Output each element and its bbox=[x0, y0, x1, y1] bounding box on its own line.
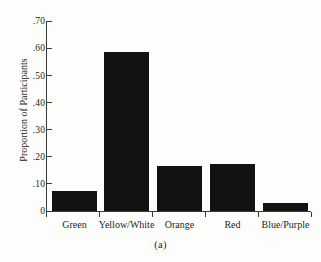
figure-panel-a: .70 .60 .50 .40 .30 .20 .10 0 Green Ye bbox=[0, 0, 321, 262]
x-category-label-blue-purple: Blue/Purple bbox=[262, 220, 310, 230]
x-tick-mark bbox=[152, 212, 153, 217]
figure-caption: (a) bbox=[0, 239, 321, 250]
bar-green bbox=[52, 191, 97, 211]
bar-red bbox=[210, 164, 255, 211]
x-tick-mark bbox=[205, 212, 206, 217]
x-tick-mark bbox=[46, 212, 47, 217]
x-axis-line bbox=[46, 211, 311, 212]
bar-orange bbox=[157, 166, 202, 211]
y-tick-label: .30 bbox=[33, 125, 47, 135]
x-category-label-orange: Orange bbox=[165, 220, 194, 230]
y-tick-mark bbox=[47, 156, 52, 157]
y-tick-label: .50 bbox=[33, 71, 47, 81]
y-tick-label: .40 bbox=[33, 98, 47, 108]
y-tick-mark bbox=[47, 48, 52, 49]
y-axis-title: Proportion of Participants bbox=[19, 35, 29, 185]
y-tick-label: .70 bbox=[33, 17, 47, 27]
y-tick-mark bbox=[47, 75, 52, 76]
y-tick-label: .10 bbox=[33, 180, 47, 190]
x-tick-mark bbox=[258, 212, 259, 217]
x-category-label-yellow-white: Yellow/White bbox=[99, 220, 155, 230]
figure-caption-text: (a) bbox=[154, 239, 166, 250]
x-tick-mark bbox=[99, 212, 100, 217]
bar-yellow-white bbox=[104, 52, 149, 211]
y-tick-mark bbox=[47, 21, 52, 22]
y-tick-label: .20 bbox=[33, 152, 47, 162]
y-tick-mark bbox=[47, 102, 52, 103]
bar-blue-purple bbox=[263, 203, 308, 211]
y-tick-label: .60 bbox=[33, 44, 47, 54]
y-tick-mark bbox=[47, 129, 52, 130]
x-category-label-red: Red bbox=[224, 220, 240, 230]
x-tick-mark bbox=[311, 212, 312, 217]
y-tick-mark bbox=[47, 183, 52, 184]
x-category-label-green: Green bbox=[62, 220, 86, 230]
